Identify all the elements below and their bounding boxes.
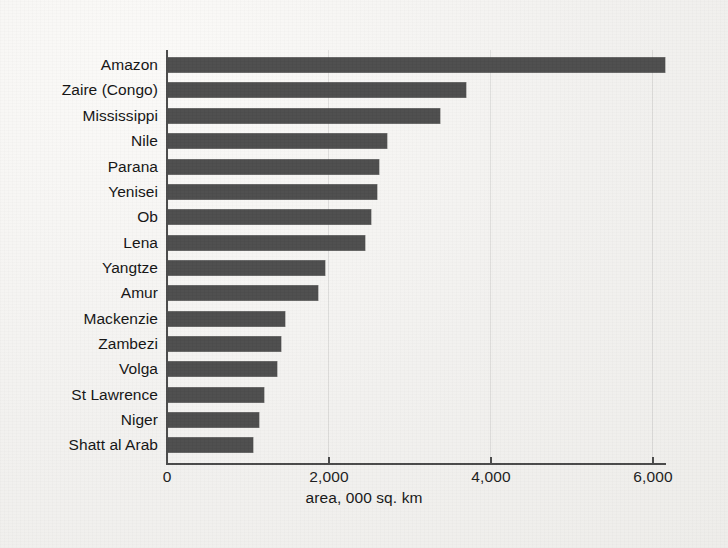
bar-category-label: Yenisei [108,183,166,201]
x-tick-label: 0 [163,468,172,486]
y-axis-line [166,50,168,464]
bar-category-label: Amur [121,284,166,302]
bar-row: Nile [0,129,728,154]
bar-row: Zaire (Congo) [0,78,728,103]
bar [168,362,277,377]
bar-row: Lena [0,230,728,255]
bar-category-label: Nile [131,132,166,150]
bar-category-label: Niger [121,411,166,429]
bar-row: Mississippi [0,103,728,128]
bar-category-label: Shatt al Arab [69,436,166,454]
x-tick-mark [652,457,654,465]
bar-row: Amazon [0,53,728,78]
bar-row: Ob [0,205,728,230]
x-axis-title: area, 000 sq. km [0,489,728,507]
bar-category-label: Lena [123,234,166,252]
bar-category-label: Mackenzie [83,310,166,328]
bar-category-label: St Lawrence [71,386,166,404]
bar [168,387,264,402]
bar-row: St Lawrence [0,382,728,407]
bar-row: Shatt al Arab [0,433,728,458]
bar [168,108,440,123]
bar-category-label: Zaire (Congo) [62,81,166,99]
x-tick-mark [166,457,168,465]
bar [168,134,387,149]
bar [168,159,379,174]
bar-row: Parana [0,154,728,179]
bar [168,413,259,428]
bar-category-label: Yangtze [102,259,166,277]
bar [168,311,285,326]
bar-row: Amur [0,281,728,306]
horizontal-bar-chart: AmazonZaire (Congo)MississippiNileParana… [0,0,728,548]
bar-row: Zambezi [0,331,728,356]
bar [168,260,325,275]
bar [168,438,253,453]
bar-category-label: Zambezi [98,335,166,353]
bar-category-label: Amazon [101,56,166,74]
bar-category-label: Volga [119,360,166,378]
x-tick-mark [490,457,492,465]
bar-category-label: Ob [137,208,166,226]
bar-row: Mackenzie [0,306,728,331]
bar-row: Yangtze [0,255,728,280]
bar [168,184,377,199]
bar-row: Niger [0,407,728,432]
x-tick-mark [328,457,330,465]
bar [168,286,318,301]
x-axis-line [166,463,666,465]
bar [168,58,665,73]
bar [168,235,365,250]
bar [168,83,466,98]
bar-row: Yenisei [0,179,728,204]
bar-category-label: Parana [108,158,166,176]
x-tick-label: 4,000 [471,468,510,486]
chart-page: AmazonZaire (Congo)MississippiNileParana… [0,0,728,548]
x-tick-label: 6,000 [633,468,672,486]
x-tick-label: 2,000 [309,468,348,486]
bar-category-label: Mississippi [83,107,166,125]
bar-row: Volga [0,357,728,382]
bar [168,210,371,225]
bar [168,336,281,351]
